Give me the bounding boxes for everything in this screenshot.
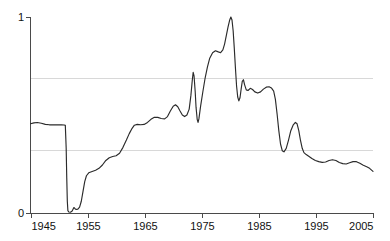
gridlines bbox=[31, 79, 374, 151]
x-tick-label-1975: 1975 bbox=[190, 220, 214, 232]
chart-container: 1 0 1945195519651975198519952005 bbox=[0, 0, 390, 241]
x-tick-label-1985: 1985 bbox=[247, 220, 271, 232]
x-tick-labels: 1945195519651975198519952005 bbox=[32, 220, 374, 232]
y-tick-label-bottom: 0 bbox=[18, 207, 24, 219]
line-chart: 1 0 1945195519651975198519952005 bbox=[0, 0, 390, 241]
y-tick-label-top: 1 bbox=[18, 11, 24, 23]
tick-labels: 1 0 bbox=[18, 11, 24, 219]
x-tick-label-1955: 1955 bbox=[76, 220, 100, 232]
series-line-1 bbox=[31, 17, 374, 212]
series-group bbox=[31, 17, 374, 212]
x-tick-label-1995: 1995 bbox=[304, 220, 328, 232]
x-tick-label-2005: 2005 bbox=[349, 220, 373, 232]
x-tick-label-1965: 1965 bbox=[133, 220, 157, 232]
x-tick-label-1945: 1945 bbox=[32, 220, 56, 232]
